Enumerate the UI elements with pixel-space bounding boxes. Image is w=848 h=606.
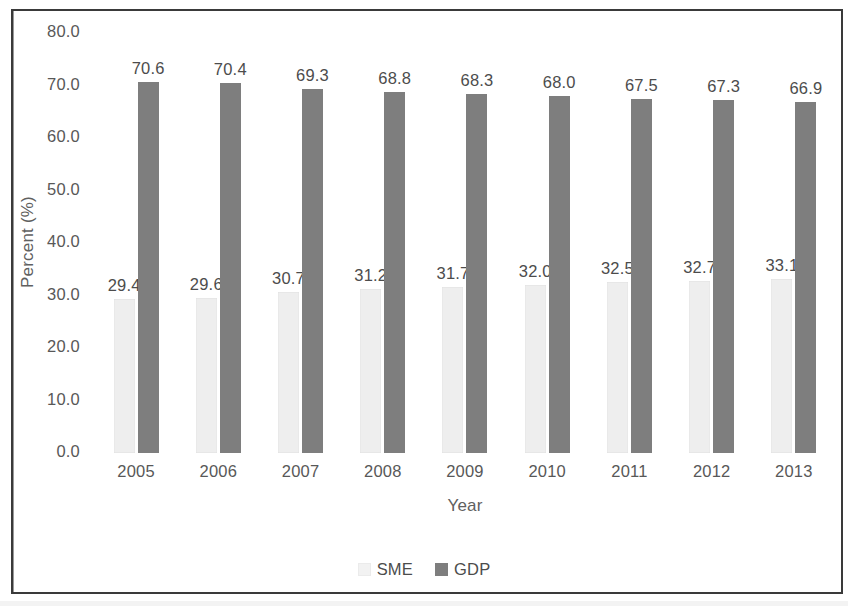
data-label-gdp-2012: 67.3 [700, 77, 748, 96]
bar-gdp-2013[interactable] [795, 102, 816, 453]
y-axis-tick-label: 50.0 [18, 180, 80, 199]
bar-gdp-2010[interactable] [549, 96, 570, 453]
y-axis-tick-label: 0.0 [18, 442, 80, 461]
legend-item-sme[interactable]: SME [358, 560, 413, 579]
y-axis-tick-label: 70.0 [18, 75, 80, 94]
bar-sme-2006[interactable] [196, 298, 217, 453]
data-label-gdp-2010: 68.0 [535, 73, 583, 92]
x-axis-tick-label-2006: 2006 [177, 462, 259, 481]
bar-sme-2009[interactable] [442, 287, 463, 453]
data-label-gdp-2008: 68.8 [371, 69, 419, 88]
bar-gdp-2009[interactable] [466, 94, 487, 453]
y-axis-tick-label: 80.0 [18, 22, 80, 41]
bar-group: 32.767.3 [671, 33, 753, 453]
bar-gdp-2006[interactable] [220, 83, 241, 453]
bar-sme-2007[interactable] [278, 292, 299, 453]
x-axis-tick-label-2009: 2009 [424, 462, 506, 481]
y-axis-tick-label: 40.0 [18, 232, 80, 251]
chart-figure: Percent (%) 80.070.060.050.040.030.020.0… [0, 0, 848, 606]
x-axis-tick-label-2008: 2008 [342, 462, 424, 481]
bar-group: 32.567.5 [588, 33, 670, 453]
legend-swatch-sme-icon [358, 563, 371, 576]
data-label-gdp-2013: 66.9 [782, 79, 830, 98]
bar-sme-2005[interactable] [114, 299, 135, 453]
bar-group: 32.068.0 [506, 33, 588, 453]
legend-label-gdp: GDP [454, 560, 490, 579]
bar-sme-2013[interactable] [771, 279, 792, 453]
x-axis-title: Year [95, 496, 835, 516]
x-axis-tick-label-2007: 2007 [259, 462, 341, 481]
bar-group: 30.769.3 [259, 33, 341, 453]
bar-gdp-2007[interactable] [302, 89, 323, 453]
bar-gdp-2011[interactable] [631, 99, 652, 453]
bar-group: 33.166.9 [753, 33, 835, 453]
y-axis-tick-label: 20.0 [18, 337, 80, 356]
legend-swatch-gdp-icon [435, 563, 448, 576]
x-axis-tick-label-2005: 2005 [95, 462, 177, 481]
bar-group: 29.670.4 [177, 33, 259, 453]
y-axis-tick-label: 10.0 [18, 390, 80, 409]
scan-edge-artifact [0, 601, 848, 606]
bar-group: 31.268.8 [342, 33, 424, 453]
bar-sme-2010[interactable] [525, 285, 546, 453]
bar-gdp-2005[interactable] [138, 82, 159, 453]
bar-gdp-2008[interactable] [384, 92, 405, 453]
chart-legend: SMEGDP [0, 560, 848, 579]
x-axis-tick-label-2012: 2012 [671, 462, 753, 481]
bar-gdp-2012[interactable] [713, 100, 734, 453]
data-label-gdp-2009: 68.3 [453, 71, 501, 90]
data-label-gdp-2007: 69.3 [289, 66, 337, 85]
x-axis-tick-label-2010: 2010 [506, 462, 588, 481]
data-label-gdp-2006: 70.4 [206, 60, 254, 79]
legend-item-gdp[interactable]: GDP [435, 560, 490, 579]
data-label-gdp-2005: 70.6 [124, 59, 172, 78]
plot-area: 29.470.629.670.430.769.331.268.831.768.3… [95, 33, 835, 453]
bar-sme-2011[interactable] [607, 282, 628, 453]
bar-group: 29.470.6 [95, 33, 177, 453]
bar-sme-2012[interactable] [689, 281, 710, 453]
bar-group: 31.768.3 [424, 33, 506, 453]
legend-label-sme: SME [377, 560, 413, 579]
x-axis-tick-label-2011: 2011 [588, 462, 670, 481]
x-axis-tick-label-2013: 2013 [753, 462, 835, 481]
y-axis-tick-label: 60.0 [18, 127, 80, 146]
data-label-gdp-2011: 67.5 [617, 76, 665, 95]
y-axis-tick-label: 30.0 [18, 285, 80, 304]
bar-sme-2008[interactable] [360, 289, 381, 453]
